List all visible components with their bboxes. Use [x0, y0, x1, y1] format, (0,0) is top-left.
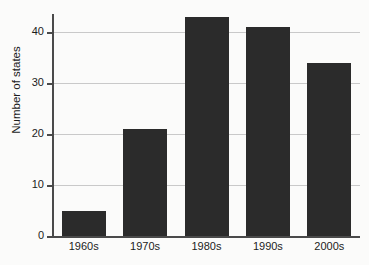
bar-1980s [185, 17, 229, 236]
x-tick-label: 1980s [176, 241, 237, 252]
bar-1970s [123, 129, 167, 236]
y-axis-title: Number of states [10, 30, 22, 150]
bar-1960s [62, 211, 106, 237]
y-tick-mark [47, 32, 53, 34]
y-tick-label: 10 [18, 179, 44, 190]
y-tick-mark [47, 134, 53, 136]
x-tick-label: 2000s [299, 241, 360, 252]
bar-2000s [307, 63, 351, 236]
x-tick-label: 1970s [114, 241, 175, 252]
x-axis-line [53, 236, 360, 238]
plot-area [53, 14, 360, 236]
bar-chart-figure: 010203040 1960s1970s1980s1990s2000s Numb… [0, 0, 369, 265]
y-tick-mark [47, 236, 53, 238]
x-tick-label: 1990s [237, 241, 298, 252]
bar-1990s [246, 27, 290, 236]
y-tick-mark [47, 185, 53, 187]
y-tick-mark [47, 83, 53, 85]
y-axis-line [52, 14, 54, 237]
y-tick-label: 0 [18, 230, 44, 241]
x-tick-label: 1960s [53, 241, 114, 252]
